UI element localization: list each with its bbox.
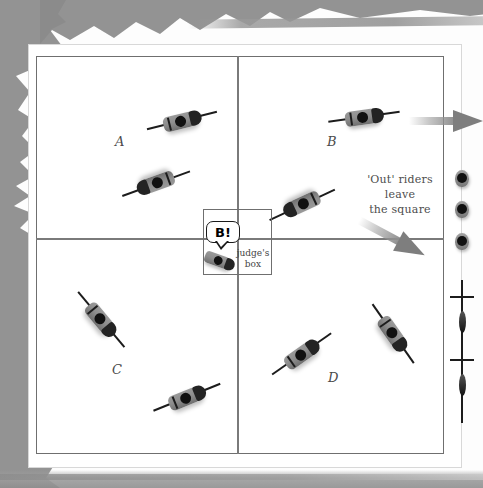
- rider-head: [457, 204, 467, 214]
- rider-body: [459, 374, 466, 396]
- annotation-line-1: 'Out' riders leave: [367, 173, 433, 201]
- quadrant-label-d: D: [328, 370, 339, 385]
- arrow-head-icon: [453, 110, 483, 132]
- scan-shadow-bottom: [0, 474, 483, 480]
- judges-box-label: judge's box: [230, 248, 276, 270]
- scan-streak: [188, 16, 483, 29]
- annotation-out-riders: 'Out' riders leave the square: [352, 172, 448, 217]
- diagram-page: A B C D: [0, 0, 483, 488]
- rider-head: [457, 236, 467, 246]
- arrow-shaft: [409, 117, 455, 125]
- quadrant-label-c: C: [112, 362, 122, 377]
- quadrant-label-a: A: [115, 134, 125, 149]
- lance-guard-icon: [450, 359, 474, 361]
- lance-guard-icon: [450, 296, 474, 298]
- annotation-line-2: the square: [369, 203, 431, 216]
- rider-body: [459, 311, 466, 333]
- quadrant-label-b: B: [327, 134, 337, 149]
- bubble-tail-inner-icon: [217, 241, 227, 247]
- rider-head: [457, 173, 467, 183]
